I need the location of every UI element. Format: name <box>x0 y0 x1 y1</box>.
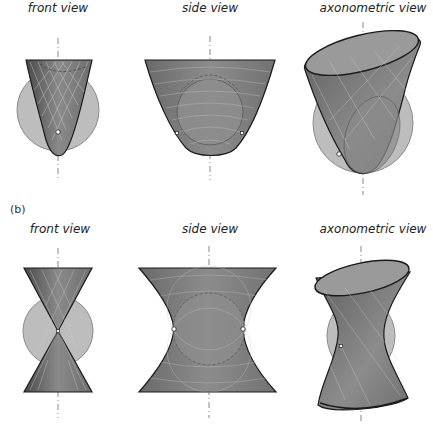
row-a-axonometric-view <box>301 22 422 195</box>
contact-point <box>57 330 60 333</box>
contact-point-left <box>176 132 179 135</box>
contact-point <box>340 345 343 348</box>
contact-point-right <box>241 327 245 331</box>
sphere <box>177 79 243 145</box>
row-b-front-view <box>23 248 93 418</box>
row-a-side-view <box>145 36 275 180</box>
row-b-side-view <box>139 246 276 418</box>
contact-point <box>56 130 60 134</box>
contact-point-left <box>172 327 176 331</box>
row-a-front-view <box>17 38 99 180</box>
row-b-axonometric-view <box>312 246 412 422</box>
contact-point <box>337 152 341 156</box>
figure-canvas <box>0 0 433 424</box>
sphere <box>173 293 245 365</box>
contact-point-right <box>241 132 244 135</box>
